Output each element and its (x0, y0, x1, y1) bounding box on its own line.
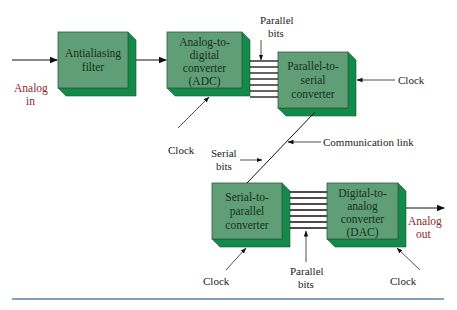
block-label-line: Antialiasing (65, 47, 121, 60)
block-label-line: Serial-to- (225, 191, 269, 203)
adc-block: Analog-to- digital converter (ADC) (167, 32, 250, 96)
dac-block: Digital-to- analog converter (DAC) (327, 183, 406, 247)
parallel-bus-bottom (290, 192, 327, 228)
clock-dac-pointer (397, 248, 420, 270)
block-label-line: converter (183, 62, 227, 74)
block-label-line: filter (82, 61, 105, 73)
analog-in-label: Analog (14, 82, 48, 95)
serial-bits-label: Serial (211, 147, 237, 159)
block-label-line: converter (225, 219, 269, 231)
block-label-line: (ADC) (189, 75, 221, 88)
parallel-bus-top (250, 61, 278, 97)
serial-to-parallel-block: Serial-to- parallel converter (212, 183, 290, 247)
parallel-to-serial-block: Parallel-to- serial converter (278, 52, 356, 116)
block-label-line: converter (341, 213, 385, 225)
parallel-bits-top-label: Parallel (260, 14, 294, 26)
antialiasing-filter-block: Antialiasing filter (58, 32, 136, 96)
block-label-line: parallel (230, 205, 264, 218)
clock-s2p-label: Clock (203, 275, 230, 287)
block-label-line: converter (291, 88, 335, 100)
parallel-bits-bottom-label: Parallel (290, 265, 324, 277)
block-label-line: Digital-to- (338, 187, 387, 200)
communication-link-label: Communication link (323, 136, 414, 148)
block-label-line: (DAC) (347, 226, 379, 239)
clock-dac-label: Clock (390, 275, 417, 287)
analog-out-label: Analog (408, 215, 442, 228)
parallel-bits-bottom-label: bits (298, 278, 314, 290)
block-label-line: Analog-to- (179, 36, 230, 49)
serial-bits-label: bits (216, 160, 232, 172)
clock-adc-pointer (178, 97, 209, 128)
block-label-line: digital (190, 49, 219, 62)
clock-s2p-pointer (226, 248, 246, 270)
clock-adc-label: Clock (168, 144, 195, 156)
communication-link-line (247, 112, 315, 183)
data-conversion-diagram: Antialiasing filter Analog-to- digital c… (0, 0, 457, 310)
block-label-line: analog (347, 200, 378, 213)
clock-p2s-label: Clock (398, 74, 425, 86)
analog-out-label: out (416, 228, 432, 240)
block-label-line: Parallel-to- (287, 60, 339, 72)
block-label-line: serial (301, 74, 326, 86)
analog-in-label: in (26, 95, 35, 107)
parallel-bits-top-label: bits (268, 27, 284, 39)
